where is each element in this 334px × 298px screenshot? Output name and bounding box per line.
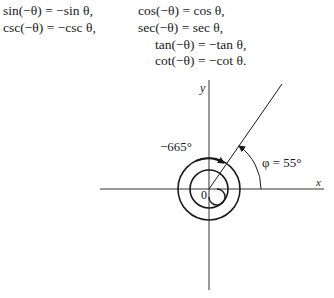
y-axis-label: y: [199, 81, 206, 95]
rotation-start-arc: [209, 189, 225, 205]
reference-angle-label: φ = 55°: [262, 155, 302, 170]
angle-label: −665°: [160, 139, 192, 154]
origin-label: 0: [201, 188, 207, 202]
reference-angle-arc: [239, 146, 261, 189]
angle-figure: y x 0 −665° φ = 55°: [0, 0, 334, 298]
x-axis-label: x: [315, 176, 321, 188]
